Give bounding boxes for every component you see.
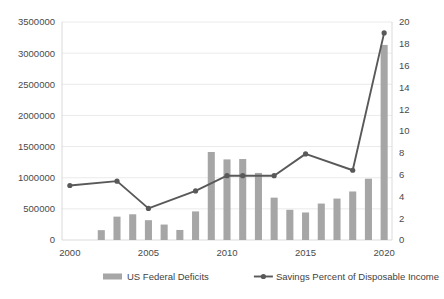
chart-legend: US Federal DeficitsSavings Percent of Di… [103, 271, 439, 282]
line-marker-2018 [350, 168, 355, 173]
bar-series-group [98, 45, 388, 240]
left-axis-labels: 0500000100000015000002000000250000030000… [18, 16, 55, 245]
bar-2005 [145, 220, 152, 240]
left-tick-3500000: 3500000 [18, 16, 55, 27]
bar-2011 [239, 159, 246, 240]
combo-chart: 0500000100000015000002000000250000030000… [0, 0, 444, 299]
bar-2020 [381, 45, 388, 240]
line-marker-2000 [67, 183, 72, 188]
line-marker-2015 [303, 151, 308, 156]
right-tick-2: 2 [399, 213, 404, 224]
bar-2010 [223, 159, 230, 240]
legend-marker-savings [261, 274, 266, 279]
bar-2018 [349, 191, 356, 240]
left-tick-1500000: 1500000 [18, 141, 55, 152]
left-tick-500000: 500000 [23, 203, 55, 214]
x-tick-2000: 2000 [59, 247, 80, 258]
bar-2006 [161, 225, 168, 240]
right-tick-4: 4 [399, 191, 404, 202]
line-marker-2005 [146, 206, 151, 211]
left-tick-2500000: 2500000 [18, 79, 55, 90]
x-tick-2015: 2015 [295, 247, 316, 258]
chart-container: 0500000100000015000002000000250000030000… [0, 0, 444, 299]
right-tick-12: 12 [399, 104, 410, 115]
bar-2002 [98, 230, 105, 240]
right-tick-10: 10 [399, 125, 410, 136]
bar-2009 [208, 152, 215, 240]
right-tick-16: 16 [399, 60, 410, 71]
right-tick-8: 8 [399, 147, 404, 158]
line-marker-2010 [224, 173, 229, 178]
x-axis-labels: 20002005201020152020 [59, 247, 394, 258]
legend-label-savings: Savings Percent of Disposable Income [276, 271, 439, 282]
legend-swatch-deficits [103, 274, 122, 280]
bar-2014 [286, 210, 293, 240]
line-marker-2003 [114, 179, 119, 184]
bar-2008 [192, 211, 199, 240]
left-tick-2000000: 2000000 [18, 110, 55, 121]
line-marker-2008 [193, 188, 198, 193]
left-tick-1000000: 1000000 [18, 172, 55, 183]
bar-2003 [113, 217, 120, 240]
right-tick-14: 14 [399, 82, 410, 93]
left-tick-0: 0 [50, 234, 55, 245]
right-tick-0: 0 [399, 234, 404, 245]
bar-2015 [302, 212, 309, 240]
x-tick-2005: 2005 [138, 247, 159, 258]
bar-2019 [365, 179, 372, 240]
bar-2013 [271, 198, 278, 240]
left-tick-3000000: 3000000 [18, 48, 55, 59]
x-tick-2020: 2020 [374, 247, 395, 258]
right-tick-6: 6 [399, 169, 404, 180]
bar-2017 [333, 199, 340, 240]
line-marker-2011 [240, 173, 245, 178]
x-tick-2010: 2010 [216, 247, 237, 258]
right-tick-18: 18 [399, 38, 410, 49]
bar-2004 [129, 214, 136, 240]
bar-2012 [255, 173, 262, 240]
line-marker-2013 [272, 173, 277, 178]
bar-2007 [176, 230, 183, 240]
right-axis-labels: 02468101214161820 [399, 16, 410, 245]
bar-2016 [318, 204, 325, 240]
legend-label-deficits: US Federal Deficits [127, 271, 209, 282]
right-tick-20: 20 [399, 16, 410, 27]
line-marker-2020 [382, 30, 387, 35]
